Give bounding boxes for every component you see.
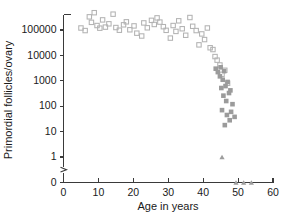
- x-tick-label: 10: [93, 186, 105, 198]
- data-point-open-square: [145, 26, 149, 30]
- x-tick-label: 40: [197, 186, 209, 198]
- data-point-open-square: [142, 21, 146, 25]
- data-point-filled-square: [229, 110, 234, 115]
- data-point-filled-square: [227, 118, 232, 123]
- data-point-open-square: [168, 36, 172, 40]
- y-tick-label: 100: [39, 99, 57, 111]
- scatter-plot: 1000001000010001001010 0102030405060 Age…: [0, 0, 282, 224]
- data-point-open-square: [100, 18, 104, 22]
- data-point-open-square: [135, 31, 139, 35]
- data-point-open-square: [184, 33, 188, 37]
- data-point-open-square: [89, 20, 93, 24]
- x-tick-label: 20: [127, 186, 139, 198]
- data-point-filled-square: [219, 86, 224, 91]
- data-point-open-square: [180, 27, 184, 31]
- data-point-filled-square: [220, 77, 225, 82]
- data-point-open-square: [177, 19, 181, 23]
- x-axis-title: Age in years: [137, 200, 199, 212]
- y-tick-label: 0: [51, 176, 57, 188]
- data-point-filled-square: [225, 80, 230, 85]
- data-point-open-square: [200, 32, 204, 36]
- data-point-open-square: [202, 37, 206, 41]
- data-point-filled-square: [216, 70, 221, 75]
- data-point-open-square: [174, 29, 178, 33]
- data-point-open-square: [92, 10, 96, 14]
- data-point-open-square: [111, 12, 115, 16]
- data-point-filled-square: [230, 102, 235, 107]
- data-point-open-square: [124, 20, 128, 24]
- x-tick-label: 50: [232, 186, 244, 198]
- y-axis-break-mark: [61, 167, 67, 172]
- data-point-filled-square: [223, 84, 228, 89]
- data-point-open-square: [205, 26, 209, 30]
- data-point-filled-square: [225, 113, 230, 118]
- data-point-filled-square: [220, 108, 225, 113]
- x-axis-ticks: 0102030405060: [61, 178, 279, 198]
- data-point-triangle: [219, 155, 224, 160]
- data-point-open-square: [171, 23, 175, 27]
- y-tick-label: 10: [45, 125, 57, 137]
- data-point-filled-square: [221, 93, 226, 98]
- data-point-open-square: [197, 43, 201, 47]
- x-tick-label: 0: [61, 186, 67, 198]
- data-point-open-square: [190, 24, 194, 28]
- chart-canvas: 1000001000010001001010 0102030405060 Age…: [0, 0, 282, 224]
- plot-frame: [61, 15, 274, 183]
- x-tick-label: 60: [267, 186, 279, 198]
- y-axis-title: Primordial follicles/ovary: [2, 40, 14, 159]
- data-point-filled-square: [232, 115, 237, 120]
- data-point-open-square: [87, 15, 91, 19]
- data-point-filled-square: [224, 99, 229, 104]
- data-markers: [79, 10, 254, 184]
- data-point-filled-square: [228, 88, 233, 93]
- data-point-filled-square: [222, 69, 227, 74]
- y-tick-label: 1: [51, 150, 57, 162]
- data-point-open-square: [194, 28, 198, 32]
- data-point-open-square: [188, 15, 192, 19]
- y-tick-label: 10000: [27, 49, 56, 61]
- x-tick-label: 30: [162, 186, 174, 198]
- y-tick-label: 1000: [33, 74, 57, 86]
- y-axis-ticks: 1000001000010001001010: [21, 23, 63, 188]
- data-point-open-square: [121, 23, 125, 27]
- data-point-filled-square: [223, 123, 228, 128]
- data-point-open-square: [140, 34, 144, 38]
- y-tick-label: 100000: [21, 23, 56, 35]
